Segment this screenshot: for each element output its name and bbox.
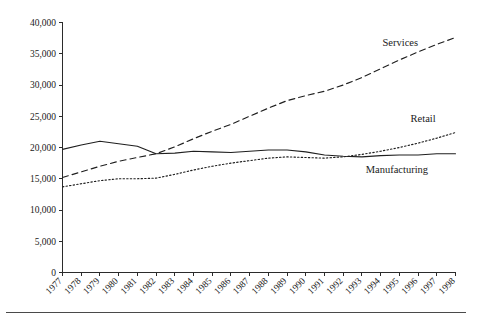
x-axis-tick-marks <box>63 273 456 277</box>
y-tick-label: 15,000 <box>30 174 56 184</box>
y-axis-tick-marks <box>59 23 63 273</box>
y-tick-label: 25,000 <box>30 112 56 122</box>
y-axis-tick-labels: 05,00010,00015,00020,00025,00030,00035,0… <box>30 18 56 278</box>
x-tick-label: 1983 <box>156 276 176 296</box>
x-tick-label: 1996 <box>399 276 419 296</box>
y-tick-label: 35,000 <box>30 49 56 59</box>
x-tick-label: 1982 <box>137 276 157 296</box>
x-tick-label: 1980 <box>100 276 120 296</box>
y-tick-label: 10,000 <box>30 205 56 215</box>
x-tick-label: 1997 <box>418 276 438 296</box>
x-tick-label: 1990 <box>287 276 307 296</box>
x-tick-label: 1978 <box>62 276 82 296</box>
x-tick-label: 1989 <box>268 276 288 296</box>
x-tick-label: 1991 <box>306 276 326 296</box>
chart-canvas: 05,00010,00015,00020,00025,00030,00035,0… <box>0 0 477 324</box>
y-tick-label: 30,000 <box>30 80 56 90</box>
series-label-manufacturing: Manufacturing <box>366 164 429 175</box>
y-tick-label: 5,000 <box>35 237 57 247</box>
x-tick-label: 1981 <box>119 276 139 296</box>
x-tick-label: 1994 <box>362 276 382 296</box>
x-tick-label: 1977 <box>44 276 64 296</box>
x-tick-label: 1987 <box>231 276 251 296</box>
x-tick-label: 1984 <box>175 276 195 296</box>
line-chart-figure: 05,00010,00015,00020,00025,00030,00035,0… <box>0 0 477 324</box>
y-tick-label: 40,000 <box>30 18 56 28</box>
x-tick-label: 1998 <box>437 276 457 296</box>
series-line-manufacturing <box>63 141 456 157</box>
series-line-retail <box>63 133 456 187</box>
x-tick-label: 1979 <box>81 276 101 296</box>
series-line-services <box>63 38 456 178</box>
x-axis-tick-labels: 1977197819791980198119821983198419851986… <box>44 276 457 296</box>
bottom-horizontal-rule <box>6 312 466 313</box>
x-tick-label: 1992 <box>324 276 344 296</box>
x-tick-label: 1993 <box>343 276 363 296</box>
series-label-services: Services <box>383 37 419 48</box>
x-tick-label: 1985 <box>193 276 213 296</box>
y-tick-label: 20,000 <box>30 143 56 153</box>
x-tick-label: 1986 <box>212 276 232 296</box>
chart-axes <box>59 23 456 277</box>
series-label-retail: Retail <box>411 113 436 124</box>
x-tick-label: 1995 <box>381 276 401 296</box>
x-tick-label: 1988 <box>250 276 270 296</box>
